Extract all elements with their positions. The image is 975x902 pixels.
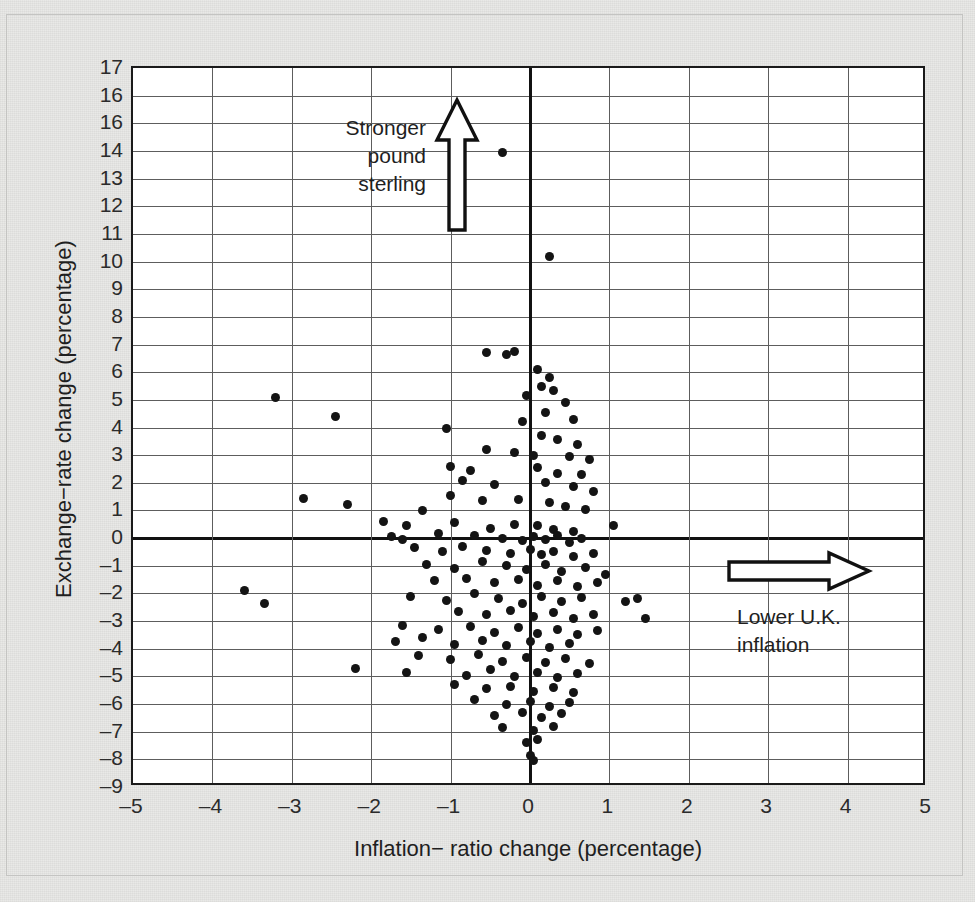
x-axis-tick-label: –1	[419, 795, 479, 816]
data-point	[450, 640, 459, 649]
data-point	[478, 496, 487, 505]
arrow-right-icon	[725, 549, 873, 593]
data-point	[529, 612, 538, 621]
data-point	[569, 482, 578, 491]
annotation-line: inflation	[737, 631, 940, 659]
data-point	[537, 550, 546, 559]
data-point	[462, 574, 471, 583]
data-point	[577, 593, 586, 602]
data-point	[581, 563, 590, 572]
data-point	[514, 623, 523, 632]
x-axis-tick-label: 1	[577, 795, 637, 816]
data-point	[533, 581, 542, 590]
data-point	[502, 561, 511, 570]
data-point	[585, 455, 594, 464]
annotation-line: sterling	[318, 170, 426, 198]
data-point	[506, 682, 515, 691]
data-point	[506, 606, 515, 615]
data-point	[549, 608, 558, 617]
data-point	[589, 549, 598, 558]
data-point	[589, 487, 598, 496]
y-axis-title: Exchange−rate change (percentage)	[51, 59, 77, 779]
data-point	[549, 683, 558, 692]
data-point	[565, 452, 574, 461]
data-point	[387, 532, 396, 541]
data-point	[557, 597, 566, 606]
data-point	[490, 711, 499, 720]
data-point	[593, 578, 602, 587]
x-axis-tick-label: 3	[736, 795, 796, 816]
data-point	[470, 695, 479, 704]
data-point	[569, 415, 578, 424]
data-point	[498, 723, 507, 732]
gridline-vertical	[768, 68, 769, 783]
data-point	[577, 470, 586, 479]
data-point	[553, 435, 562, 444]
data-point	[565, 698, 574, 707]
data-point	[482, 610, 491, 619]
x-axis-tick-label: –4	[180, 795, 240, 816]
data-point	[458, 476, 467, 485]
data-point	[526, 697, 535, 706]
data-point	[466, 622, 475, 631]
data-point	[553, 576, 562, 585]
data-point	[545, 702, 554, 711]
data-point	[458, 542, 467, 551]
data-point	[474, 650, 483, 659]
data-point	[533, 735, 542, 744]
data-point	[482, 546, 491, 555]
data-point	[565, 639, 574, 648]
data-point	[514, 495, 523, 504]
data-point	[561, 502, 570, 511]
x-axis-tick-label: –3	[260, 795, 320, 816]
data-point	[391, 637, 400, 646]
data-point	[633, 594, 642, 603]
annotation-stronger-pound-sterling: Stronger pound sterling	[318, 96, 488, 236]
data-point	[537, 713, 546, 722]
data-point	[541, 658, 550, 667]
data-point	[577, 534, 586, 543]
data-point	[502, 700, 511, 709]
data-point	[553, 625, 562, 634]
data-point	[537, 431, 546, 440]
data-point	[450, 518, 459, 527]
data-point	[240, 586, 249, 595]
gridline-vertical	[609, 68, 610, 783]
data-point	[545, 643, 554, 652]
data-point	[478, 557, 487, 566]
data-point	[470, 531, 479, 540]
data-point	[541, 478, 550, 487]
data-point	[486, 524, 495, 533]
data-point	[585, 659, 594, 668]
data-point	[498, 148, 507, 157]
data-point	[506, 549, 515, 558]
data-point	[529, 532, 538, 541]
data-point	[414, 651, 423, 660]
data-point	[510, 672, 519, 681]
data-point	[331, 412, 340, 421]
x-axis-tick-label: –5	[101, 795, 161, 816]
data-point	[526, 545, 535, 554]
data-point	[561, 398, 570, 407]
plot-frame	[131, 66, 925, 785]
data-point	[418, 506, 427, 515]
data-point	[533, 521, 542, 530]
data-point	[502, 350, 511, 359]
data-point	[482, 445, 491, 454]
annotation-lower-uk-inflation-text: Lower U.K. inflation	[725, 597, 940, 658]
data-point	[470, 589, 479, 598]
annotation-stronger-pound-sterling-text: Stronger pound sterling	[318, 96, 426, 198]
annotation-line: pound	[318, 142, 426, 170]
data-point	[430, 576, 439, 585]
data-point	[581, 505, 590, 514]
x-axis-tick-label: 2	[657, 795, 717, 816]
data-point	[609, 521, 618, 530]
data-point	[490, 628, 499, 637]
data-point	[565, 538, 574, 547]
data-point	[541, 535, 550, 544]
data-point	[398, 621, 407, 630]
data-point	[553, 469, 562, 478]
gridline-vertical	[848, 68, 849, 783]
data-point	[601, 570, 610, 579]
data-point	[569, 527, 578, 536]
